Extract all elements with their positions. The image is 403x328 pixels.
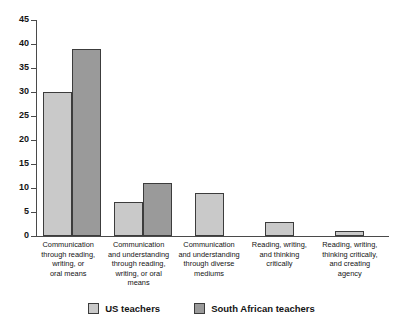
bar-chart: 051015202530354045 Communicationthrough … [0, 0, 403, 328]
y-axis-tick [31, 236, 36, 237]
x-axis-label-line: oral means [33, 269, 103, 279]
y-axis-tick-label: 0 [1, 231, 29, 240]
legend-swatch-sa [194, 303, 205, 314]
y-axis-tick [31, 188, 36, 189]
legend-label: US teachers [105, 303, 160, 314]
y-axis-tick-label: 45 [1, 15, 29, 24]
y-axis-tick-label: 30 [1, 87, 29, 96]
x-axis-label-line: through diverse [174, 259, 244, 269]
x-axis-label-line: through reading, [103, 259, 173, 269]
x-axis-line [36, 236, 389, 237]
x-axis-label-line: and understanding [174, 250, 244, 260]
x-axis-category-labels: Communicationthrough reading,writing, or… [37, 240, 389, 296]
x-axis-label-line: Communication [174, 240, 244, 250]
bar-sa-group-1 [72, 49, 101, 236]
x-axis-label-line: through reading, [33, 250, 103, 260]
y-axis-tick [31, 212, 36, 213]
y-axis-tick [31, 44, 36, 45]
x-axis-label-line: thinking critically, [315, 250, 385, 260]
bar-us-group-1 [43, 92, 72, 236]
y-axis-tick [31, 140, 36, 141]
x-axis-label-line: mediums [174, 269, 244, 279]
y-axis-tick-label: 10 [1, 183, 29, 192]
y-axis-tick [31, 92, 36, 93]
x-axis-label-group-4: Reading, writing,and thinkingcritically [244, 240, 314, 269]
y-axis-tick-label: 40 [1, 39, 29, 48]
bar-us-group-5 [335, 231, 364, 236]
x-axis-label-line: and thinking [244, 250, 314, 260]
y-axis-tick [31, 164, 36, 165]
x-axis-label-line: writing, or [33, 259, 103, 269]
x-axis-label-line: Reading, writing, [315, 240, 385, 250]
legend-label: South African teachers [211, 303, 315, 314]
bars-layer [37, 20, 389, 236]
y-axis-tick-label: 25 [1, 111, 29, 120]
x-axis-label-line: critically [244, 259, 314, 269]
y-axis-tick-label: 15 [1, 159, 29, 168]
y-axis-tick [31, 68, 36, 69]
chart-legend: US teachersSouth African teachers [0, 303, 403, 314]
y-axis-tick-label: 5 [1, 207, 29, 216]
x-axis-label-line: writing, or oral [103, 269, 173, 279]
legend-swatch-us [88, 303, 99, 314]
y-axis-tick [31, 116, 36, 117]
x-axis-label-group-1: Communicationthrough reading,writing, or… [33, 240, 103, 278]
x-axis-label-line: means [103, 278, 173, 288]
x-axis-label-group-2: Communicationand understandingthrough re… [103, 240, 173, 288]
x-axis-label-line: Reading, writing, [244, 240, 314, 250]
x-axis-label-line: and understanding [103, 250, 173, 260]
x-axis-label-line: agency [315, 269, 385, 279]
x-axis-label-group-3: Communicationand understandingthrough di… [174, 240, 244, 278]
x-axis-label-line: and creating [315, 259, 385, 269]
y-axis-tick-label: 20 [1, 135, 29, 144]
bar-us-group-3 [195, 193, 224, 236]
bar-sa-group-2 [143, 183, 172, 236]
y-axis-tick-label: 35 [1, 63, 29, 72]
bar-us-group-2 [114, 202, 143, 236]
legend-item-sa[interactable]: South African teachers [194, 303, 315, 314]
x-axis-label-group-5: Reading, writing,thinking critically,and… [315, 240, 385, 278]
legend-item-us[interactable]: US teachers [88, 303, 160, 314]
bar-us-group-4 [265, 222, 294, 236]
x-axis-label-line: Communication [103, 240, 173, 250]
y-axis-tick [31, 20, 36, 21]
x-axis-label-line: Communication [33, 240, 103, 250]
